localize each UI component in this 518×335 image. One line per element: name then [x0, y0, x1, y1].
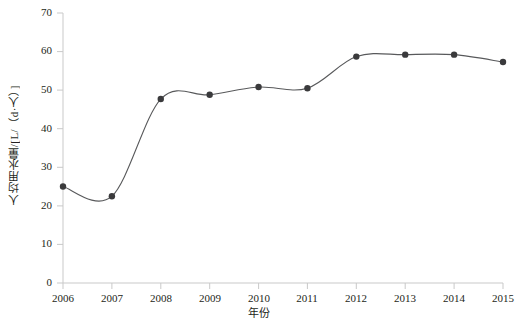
x-axis-title: 年份	[0, 304, 518, 320]
chart-figure: 人均用水量/[L/（d·人）]	[0, 0, 518, 335]
y-tick-label-50: 50	[22, 84, 52, 95]
plot-area	[0, 0, 518, 335]
x-tick-label-2011: 2011	[284, 293, 330, 304]
x-axis-ticks	[63, 283, 503, 289]
data-point-2008	[158, 96, 164, 102]
caption-strip	[0, 329, 518, 335]
x-tick-label-2006: 2006	[40, 293, 86, 304]
data-point-2012	[353, 53, 359, 59]
y-tick-label-40: 40	[22, 123, 52, 134]
data-point-2014	[451, 51, 457, 57]
data-point-2009	[206, 92, 212, 98]
x-tick-label-2007: 2007	[89, 293, 135, 304]
data-point-2006	[60, 183, 66, 189]
x-tick-label-2013: 2013	[382, 293, 428, 304]
y-tick-label-10: 10	[22, 238, 52, 249]
data-point-2010	[255, 84, 261, 90]
data-point-2007	[109, 193, 115, 199]
y-tick-label-60: 60	[22, 45, 52, 56]
series-markers	[60, 51, 506, 199]
series-line-人均用水量	[63, 54, 503, 202]
y-tick-label-30: 30	[22, 161, 52, 172]
y-axis-ticks	[57, 13, 63, 283]
y-tick-label-0: 0	[22, 277, 52, 288]
data-point-2015	[500, 59, 506, 65]
x-tick-label-2012: 2012	[333, 293, 379, 304]
y-tick-label-20: 20	[22, 200, 52, 211]
x-tick-label-2015: 2015	[480, 293, 518, 304]
x-tick-label-2010: 2010	[236, 293, 282, 304]
data-point-2013	[402, 51, 408, 57]
y-tick-label-70: 70	[22, 7, 52, 18]
x-tick-label-2014: 2014	[431, 293, 477, 304]
x-tick-label-2009: 2009	[187, 293, 233, 304]
x-tick-label-2008: 2008	[138, 293, 184, 304]
data-point-2011	[304, 85, 310, 91]
